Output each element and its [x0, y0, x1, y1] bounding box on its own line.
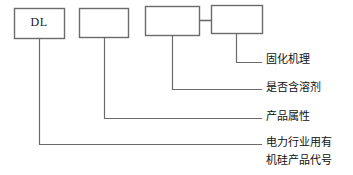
product-code-diagram: DL 固化机理 是否含溶剂 产品属性 电力行业用有 机硅产品代号	[0, 0, 353, 175]
box-dl-label: DL	[14, 15, 64, 30]
leader-attribute-line	[105, 38, 263, 119]
label-code: 电力行业用有 机硅产品代号	[266, 134, 332, 170]
label-attribute: 产品属性	[266, 108, 310, 125]
label-code-line-1: 电力行业用有	[266, 134, 332, 152]
label-code-line-2: 机硅产品代号	[266, 152, 332, 170]
box-fourth	[212, 6, 263, 34]
leader-curing-line	[237, 34, 263, 63]
box-third	[146, 7, 200, 36]
box-second	[80, 9, 129, 38]
label-solvent: 是否含溶剂	[266, 79, 321, 96]
leader-code-line	[40, 39, 263, 145]
label-curing: 固化机理	[266, 51, 310, 68]
